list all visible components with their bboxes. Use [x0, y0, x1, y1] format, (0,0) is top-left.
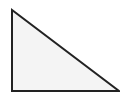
diagram-canvas: [0, 0, 120, 95]
right-triangle-shape: [12, 10, 119, 91]
